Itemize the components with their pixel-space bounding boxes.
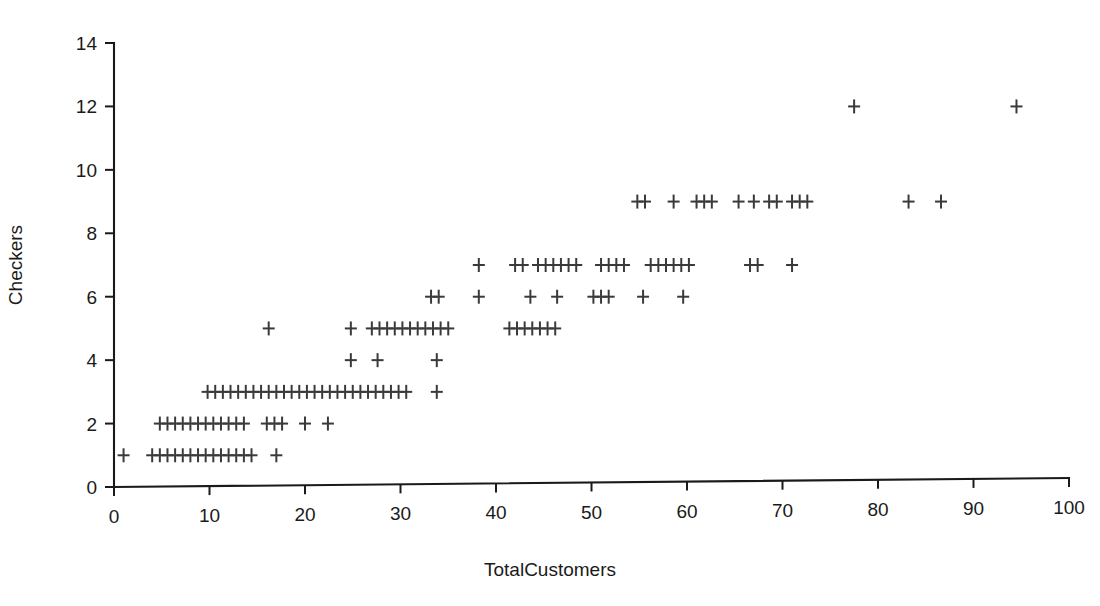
data-point [431,353,443,367]
data-point [618,258,630,272]
x-axis-title: TotalCustomers [484,559,616,580]
data-point [706,195,718,209]
y-tick-label: 14 [76,33,98,54]
x-tick-label: 70 [772,500,793,521]
data-point [118,448,130,462]
x-tick-label: 100 [1053,497,1085,518]
x-tick-label: 10 [199,505,220,526]
data-point [801,195,813,209]
data-point [473,290,485,304]
data-point [677,290,689,304]
data-point [238,417,250,431]
data-point [637,290,649,304]
scatter-chart: 010203040506070809010002468101214 TotalC… [0,0,1100,606]
x-tick-label: 50 [581,502,602,523]
data-point [372,353,384,367]
data-point [848,99,860,113]
tick-labels-layer: 010203040506070809010002468101214 [76,33,1085,527]
data-point [570,258,582,272]
y-tick-label: 0 [86,477,97,498]
data-point [551,290,563,304]
markers-layer [118,99,1023,462]
data-point [639,195,651,209]
plot-area: 010203040506070809010002468101214 TotalC… [0,0,1100,606]
data-point [771,195,783,209]
y-tick-label: 2 [86,414,97,435]
y-tick-label: 8 [86,223,97,244]
x-tick-label: 0 [109,506,120,527]
data-point [549,321,561,335]
data-point [299,417,311,431]
x-tick-label: 40 [485,502,506,523]
data-point [322,417,334,431]
data-point [603,290,615,304]
data-point [517,258,529,272]
y-tick-label: 4 [86,350,97,371]
data-point [442,321,454,335]
data-point [400,385,412,399]
data-point [752,258,764,272]
data-point [345,321,357,335]
data-point [276,417,288,431]
data-point [748,195,760,209]
x-tick-label: 60 [676,501,697,522]
x-tick-label: 20 [294,504,315,525]
x-tick-label: 30 [390,503,411,524]
axes-layer [105,43,1069,496]
data-point [683,258,695,272]
y-tick-label: 10 [76,160,97,181]
data-point [270,448,282,462]
data-point [524,290,536,304]
y-tick-label: 12 [76,96,97,117]
data-point [246,448,258,462]
x-tick-label: 90 [963,498,984,519]
data-point [1010,99,1022,113]
data-point [903,195,915,209]
y-tick-label: 6 [86,287,97,308]
y-axis-title: Checkers [5,225,26,305]
x-tick-label: 80 [867,499,888,520]
data-point [345,353,357,367]
data-point [733,195,745,209]
data-point [473,258,485,272]
data-point [431,385,443,399]
data-point [263,321,275,335]
data-point [668,195,680,209]
data-point [786,258,798,272]
data-point [935,195,947,209]
data-point [433,290,445,304]
